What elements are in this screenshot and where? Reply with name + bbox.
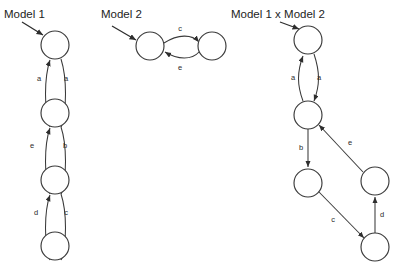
model2-pointer-icon — [112, 26, 136, 40]
product-state-5[interactable] — [361, 233, 389, 261]
model-2-group: c e Model 2 — [101, 8, 226, 72]
model1-label-c-right: c — [64, 208, 68, 217]
product-label-b: b — [299, 143, 303, 152]
model1-state-3[interactable] — [41, 166, 69, 194]
model1-label-a-right: a — [64, 74, 69, 83]
model1-state-2[interactable] — [41, 99, 69, 127]
model2-edge-e — [165, 52, 199, 58]
model1-label-a-left: a — [37, 74, 42, 83]
state-machine-diagram: a a e b d c Model 1 c e Model 2 — [0, 0, 398, 270]
model-1-title: Model 1 — [4, 8, 45, 20]
model1-state-1[interactable] — [41, 31, 69, 59]
model2-label-e: e — [178, 63, 182, 72]
model-2-title: Model 2 — [101, 8, 142, 20]
model2-state-2[interactable] — [198, 32, 226, 60]
product-edge-a-up — [299, 56, 304, 101]
product-state-1[interactable] — [294, 26, 322, 54]
diagram-canvas: a a e b d c Model 1 c e Model 2 — [0, 0, 398, 270]
model1-state-4[interactable] — [41, 232, 69, 260]
product-edge-c — [319, 192, 364, 238]
product-state-4[interactable] — [361, 167, 389, 195]
product-label-c: c — [331, 215, 335, 224]
model2-state-1[interactable] — [136, 32, 164, 60]
product-group: a a b e c d Model 1 x Model 2 — [231, 8, 389, 261]
model-1-group: a a e b d c Model 1 — [4, 8, 69, 260]
model1-label-b-right: b — [63, 141, 67, 150]
product-edge-e — [319, 125, 363, 172]
product-label-d: d — [380, 210, 384, 219]
product-label-e: e — [348, 138, 352, 147]
model1-label-e-left: e — [30, 141, 34, 150]
model2-label-c: c — [178, 24, 182, 33]
model2-edge-c — [164, 36, 199, 43]
product-label-a-left: a — [291, 73, 296, 82]
product-title: Model 1 x Model 2 — [231, 8, 325, 20]
product-pointer-icon — [280, 22, 299, 29]
model1-pointer-icon — [22, 22, 43, 35]
product-state-2[interactable] — [294, 101, 322, 129]
model1-label-d-left: d — [34, 208, 38, 217]
product-state-3[interactable] — [294, 169, 322, 197]
product-label-a-right: a — [317, 73, 322, 82]
